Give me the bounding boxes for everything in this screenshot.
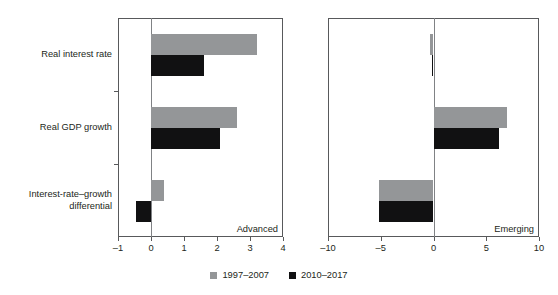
x-tick-label-advanced-5: 4 <box>280 243 285 253</box>
category-label-real-gdp-growth: Real GDP growth <box>0 122 112 134</box>
panel-advanced: Advanced <box>118 18 283 237</box>
panel-emerging-plot-area <box>328 18 539 237</box>
x-tick-emerging-1 <box>381 237 382 241</box>
x-tick-advanced-1 <box>151 237 152 241</box>
category-label-interest-rate-growth-differential: Interest-rate–growth differential <box>0 189 112 212</box>
x-tick-emerging-0 <box>328 237 329 241</box>
x-tick-advanced-5 <box>283 237 284 241</box>
x-tick-label-advanced-2: 1 <box>181 243 186 253</box>
chart-legend: 1997–2007 2010–2017 <box>0 270 558 280</box>
panel-caption-advanced: Advanced <box>237 224 278 234</box>
x-axis-advanced: –101234 <box>118 237 283 263</box>
panel-caption-emerging: Emerging <box>494 224 534 234</box>
y-tick-1 <box>114 91 118 92</box>
x-tick-emerging-3 <box>486 237 487 241</box>
x-tick-advanced-2 <box>184 237 185 241</box>
x-tick-emerging-4 <box>539 237 540 241</box>
x-tick-advanced-4 <box>250 237 251 241</box>
x-tick-advanced-0 <box>118 237 119 241</box>
bar-emerging-2010-2017-cat0 <box>432 55 433 76</box>
bar-advanced-1997-2007-cat0 <box>151 34 257 55</box>
bar-advanced-2010-2017-cat2 <box>136 201 151 222</box>
bar-advanced-1997-2007-cat2 <box>151 180 164 201</box>
legend-item-1997-2007: 1997–2007 <box>210 270 269 280</box>
x-tick-advanced-3 <box>217 237 218 241</box>
bar-emerging-2010-2017-cat1 <box>434 128 499 149</box>
legend-item-2010-2017: 2010–2017 <box>289 270 348 280</box>
bar-advanced-1997-2007-cat1 <box>151 107 237 128</box>
x-tick-label-advanced-1: 0 <box>148 243 153 253</box>
x-tick-label-emerging-4: 10 <box>534 243 544 253</box>
y-tick-2 <box>114 164 118 165</box>
legend-label-2010-2017: 2010–2017 <box>301 270 348 280</box>
legend-swatch-icon-1997-2007 <box>210 272 217 279</box>
x-tick-label-advanced-0: –1 <box>113 243 123 253</box>
category-axis-labels: Real interest rate Real GDP growth Inter… <box>0 18 112 237</box>
x-tick-label-emerging-1: –5 <box>376 243 386 253</box>
panel-emerging: Emerging <box>328 18 539 237</box>
chart-figure: Real interest rate Real GDP growth Inter… <box>0 0 558 295</box>
legend-swatch-icon-2010-2017 <box>289 272 296 279</box>
panel-advanced-plot-area <box>118 18 283 237</box>
bar-emerging-1997-2007-cat2 <box>379 180 434 201</box>
x-axis-emerging: –10–50510 <box>328 237 539 263</box>
x-tick-label-emerging-2: 0 <box>431 243 436 253</box>
bar-advanced-2010-2017-cat1 <box>151 128 220 149</box>
x-tick-emerging-2 <box>434 237 435 241</box>
category-label-real-interest-rate: Real interest rate <box>0 49 112 61</box>
bar-emerging-2010-2017-cat2 <box>379 201 434 222</box>
x-tick-label-emerging-3: 5 <box>484 243 489 253</box>
bar-emerging-1997-2007-cat0 <box>430 34 434 55</box>
x-tick-label-emerging-0: –10 <box>320 243 336 253</box>
x-tick-label-advanced-3: 2 <box>214 243 219 253</box>
bar-emerging-1997-2007-cat1 <box>434 107 508 128</box>
legend-label-1997-2007: 1997–2007 <box>222 270 269 280</box>
x-tick-label-advanced-4: 3 <box>247 243 252 253</box>
bar-advanced-2010-2017-cat0 <box>151 55 204 76</box>
